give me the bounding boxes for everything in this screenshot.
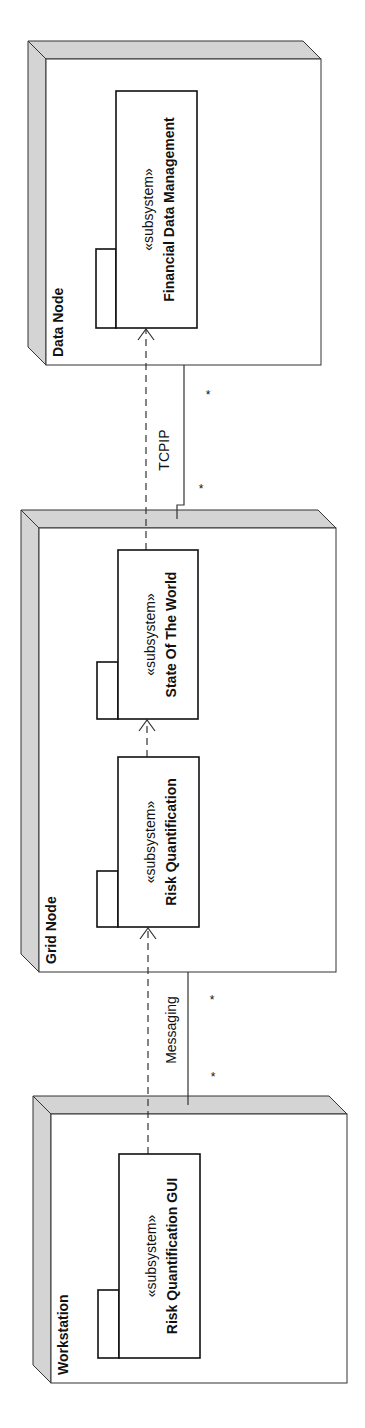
node-label: Data Node <box>50 288 66 357</box>
multiplicity-label: * <box>210 993 215 1007</box>
component-stereotype: «subsystem» <box>140 168 156 251</box>
node-label: Grid Node <box>43 896 59 964</box>
component-tab-icon <box>97 871 118 927</box>
node-side-face <box>21 510 39 972</box>
component-stereotype: «subsystem» <box>142 593 158 676</box>
node-top-face <box>33 1096 347 1114</box>
multiplicity-label: * <box>206 388 211 402</box>
component-name: State Of The World <box>163 572 179 698</box>
node-top-face <box>28 41 321 59</box>
component-tab-icon <box>96 249 116 328</box>
component-name: Risk Quantification <box>163 778 179 906</box>
component-tab-icon <box>97 662 118 719</box>
node-side-face <box>33 1096 51 1383</box>
connection-label: TCPIP <box>156 429 172 470</box>
component-name: Risk Quantification GUI <box>164 1178 180 1334</box>
connection-label: Messaging <box>163 996 179 1064</box>
component-box <box>116 91 197 328</box>
connection-messaging[interactable]: Messaging** <box>163 972 216 1105</box>
component-box <box>118 757 199 927</box>
node-label: Workstation <box>55 1294 71 1375</box>
connection-tcpip[interactable]: TCPIP** <box>156 365 211 519</box>
node-top-face <box>21 510 336 528</box>
component-name: Financial Data Management <box>161 117 177 302</box>
component-box <box>119 1154 200 1358</box>
component-tab-icon <box>98 1290 119 1358</box>
multiplicity-label: * <box>211 1070 216 1084</box>
component-stereotype: «subsystem» <box>142 801 158 884</box>
component-box <box>118 550 198 719</box>
deployment-diagram: Data NodeGrid NodeWorkstation TCPIP**Mes… <box>0 0 365 1428</box>
association-line[interactable] <box>177 365 184 519</box>
multiplicity-label: * <box>199 482 204 496</box>
node-side-face <box>28 41 46 365</box>
component-stereotype: «subsystem» <box>143 1215 159 1298</box>
